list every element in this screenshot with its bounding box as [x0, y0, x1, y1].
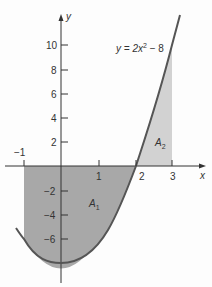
tick-label-y-10: 10	[46, 40, 58, 51]
y-axis-label: y	[65, 11, 72, 22]
x-axis-label: x	[199, 170, 206, 181]
tick-label-y-m2: −2	[44, 186, 56, 197]
y-axis-arrow-icon	[59, 14, 64, 21]
region-a1-smooth	[24, 166, 136, 263]
tick-label-y-6: 6	[51, 89, 57, 100]
tick-label-y-m6: −6	[44, 234, 56, 245]
tick-label-x-1: 1	[96, 171, 102, 182]
tick-label-y-4: 4	[51, 113, 57, 124]
tick-label-x-3: 3	[170, 171, 176, 182]
tick-label-x-2: 2	[139, 171, 145, 182]
tick-label-y-8: 8	[51, 65, 57, 76]
tick-label-x-m1: −1	[14, 147, 26, 158]
tick-label-y-m4: −4	[44, 210, 56, 221]
chart-figure: y x −1 1 2 3 10 8 6 4 2 −2 −4 −6 y = 2x2…	[0, 0, 212, 287]
tick-label-y-2: 2	[51, 137, 57, 148]
x-axis-arrow-icon	[199, 164, 206, 169]
equation-label: y = 2x2 − 8	[115, 42, 164, 54]
